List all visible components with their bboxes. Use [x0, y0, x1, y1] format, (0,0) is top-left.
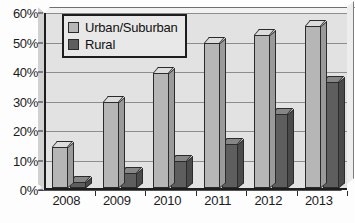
bar-side-face: [187, 156, 193, 188]
y-axis-tick-label: 30%: [0, 94, 38, 109]
x-axis-tick-label: 2012: [254, 193, 282, 208]
y-axis-tick-label: 50%: [0, 35, 38, 50]
bar-2011-urban: [204, 43, 220, 188]
x-axis-tick-mark: [297, 191, 298, 196]
bar-2012-urban: [254, 35, 270, 188]
legend-item: Urban/Suburban: [68, 19, 178, 36]
legend-swatch-icon: [68, 39, 79, 50]
y-axis-tick-mark: [38, 72, 43, 73]
y-axis-tick-mark: [38, 101, 43, 102]
bar-front-face: [153, 73, 169, 188]
y-axis-tick-mark: [38, 13, 43, 14]
bar-front-face: [204, 43, 220, 188]
y-axis: 0%10%20%30%40%50%60%: [0, 0, 38, 223]
gridline: [46, 102, 347, 103]
y-axis-tick-label: 60%: [0, 6, 38, 21]
gridline: [46, 131, 347, 132]
x-axis-tick-mark: [347, 191, 348, 196]
gridline: [46, 161, 347, 162]
bar-side-face: [169, 68, 175, 188]
legend-label: Rural: [85, 37, 115, 52]
legend-swatch-icon: [68, 22, 79, 33]
bar-side-face: [321, 21, 327, 188]
bar-side-face: [68, 142, 74, 188]
y-axis-tick-label: 40%: [0, 65, 38, 80]
legend: Urban/SuburbanRural: [62, 14, 187, 58]
bar-side-face: [270, 30, 276, 188]
bar-side-face: [288, 109, 294, 188]
bar-front-face: [103, 102, 119, 188]
y-axis-tick-label: 20%: [0, 124, 38, 139]
plot-right-edge: [347, 1, 354, 184]
x-axis-tick-label: 2008: [52, 193, 80, 208]
bar-front-face: [305, 26, 321, 188]
x-axis-tick-label: 2013: [305, 193, 333, 208]
bar-2010-urban: [153, 73, 169, 188]
x-axis: 200820092010201120122013: [44, 193, 347, 215]
y-axis-tick-mark: [38, 42, 43, 43]
y-axis-tick-label: 0%: [0, 183, 38, 198]
bar-front-face: [254, 35, 270, 188]
y-axis-tick-label: 10%: [0, 153, 38, 168]
bar-side-face: [220, 38, 226, 188]
bar-2008-urban: [52, 147, 68, 188]
y-axis-tick-mark: [38, 131, 43, 132]
legend-item: Rural: [68, 36, 178, 53]
gridline: [46, 72, 347, 73]
y-axis-tick-mark: [38, 160, 43, 161]
x-axis-tick-label: 2011: [204, 193, 231, 208]
bar-side-face: [238, 139, 244, 188]
x-axis-tick-mark: [145, 191, 146, 196]
bar-2013-urban: [305, 26, 321, 188]
bar-side-face: [119, 97, 125, 188]
bar-side-face: [339, 77, 345, 188]
x-axis-tick-label: 2010: [153, 193, 181, 208]
y-axis-tick-mark: [38, 190, 43, 191]
bar-front-face: [52, 147, 68, 188]
x-axis-tick-mark: [95, 191, 96, 196]
x-axis-tick-mark: [196, 191, 197, 196]
x-axis-tick-label: 2009: [103, 193, 131, 208]
x-axis-tick-mark: [246, 191, 247, 196]
bar-2009-urban: [103, 102, 119, 188]
legend-label: Urban/Suburban: [85, 20, 178, 35]
